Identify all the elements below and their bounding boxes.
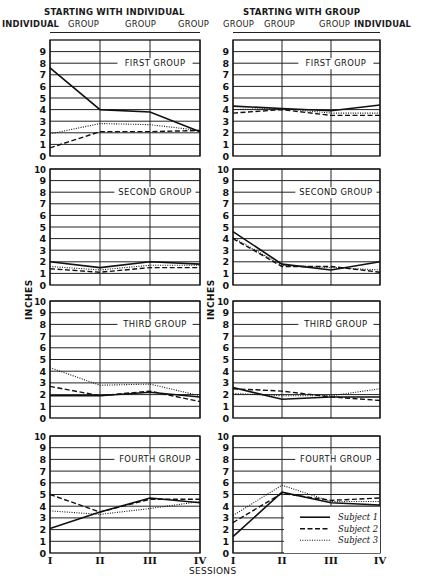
x-tick-label: IV [194,555,207,566]
y-tick-label: 7 [222,331,229,342]
y-tick-label: 0 [222,151,229,162]
y-tick-label: 9 [39,442,46,453]
y-tick-label: 4 [222,501,229,512]
group-label: THIRD GROUP [122,319,186,329]
y-tick-label: 10 [34,165,46,175]
group-label: FOURTH GROUP [119,454,191,464]
y-tick-label: 3 [39,377,46,388]
group-label: THIRD GROUP [303,319,367,329]
y-tick-label: 9 [39,175,46,186]
y-tick-label: 9 [39,307,46,318]
y-tick-label: 2 [39,389,46,400]
y-tick-label: 8 [39,58,46,69]
x-tick-label: III [143,555,157,566]
y-tick-label: 7 [39,466,46,477]
y-tick-label: 1 [39,401,46,412]
group-label: SECOND GROUP [118,187,191,197]
panel-6: 012345678910THIRD GROUP [217,297,380,424]
y-tick-label: 1 [222,536,229,547]
panel-4: 012345678910SECOND GROUP [217,165,380,291]
y-tick-label: 3 [39,512,46,523]
y-tick-label: 1 [39,536,46,547]
y-tick-label: 5 [39,93,46,104]
y-tick-label: 9 [39,46,46,57]
y-tick-label: 9 [222,175,229,186]
legend-label: Subject 1 [338,512,378,522]
y-tick-label: 5 [39,222,46,233]
y-tick-label: 2 [222,256,229,267]
chart-panels: 0123456789FIRST GROUP0123456789FIRST GRO… [0,0,423,587]
series-3-line [50,368,200,396]
y-tick-label: 0 [39,548,46,559]
panel-1: 0123456789FIRST GROUP [39,40,200,162]
y-tick-label: 8 [222,58,229,69]
y-tick-label: 2 [222,524,229,535]
y-tick-label: 10 [34,297,46,307]
y-tick-label: 3 [39,245,46,256]
series-2-line [233,110,380,116]
y-tick-label: 7 [39,331,46,342]
y-tick-label: 2 [39,127,46,138]
y-tick-label: 10 [217,297,229,307]
y-tick-label: 8 [222,187,229,198]
y-tick-label: 4 [39,104,46,115]
y-tick-label: 5 [222,354,229,365]
y-tick-label: 6 [222,477,229,488]
y-tick-label: 3 [222,245,229,256]
y-tick-label: 6 [39,81,46,92]
y-tick-label: 9 [222,442,229,453]
y-tick-label: 0 [39,280,46,291]
y-tick-label: 1 [222,401,229,412]
y-tick-label: 6 [39,210,46,221]
y-tick-label: 6 [222,81,229,92]
y-tick-label: 0 [39,151,46,162]
y-tick-label: 4 [222,366,229,377]
y-tick-label: 0 [222,413,229,424]
y-tick-label: 8 [39,187,46,198]
panel-5: 012345678910THIRD GROUP [34,297,200,424]
y-tick-label: 7 [222,466,229,477]
group-label: SECOND GROUP [299,187,372,197]
y-tick-label: 0 [39,413,46,424]
y-tick-label: 10 [217,165,229,175]
group-label: FIRST GROUP [125,58,186,68]
y-tick-label: 7 [39,69,46,80]
group-label: FOURTH GROUP [300,454,372,464]
y-tick-label: 4 [222,233,229,244]
x-tick-label: IV [374,555,387,566]
y-tick-label: 5 [222,93,229,104]
y-tick-label: 3 [222,512,229,523]
x-tick-label: II [277,555,287,566]
group-label: FIRST GROUP [306,58,367,68]
panel-3: 012345678910SECOND GROUP [34,165,200,291]
y-tick-label: 1 [39,139,46,150]
y-tick-label: 9 [222,307,229,318]
y-tick-label: 5 [222,489,229,500]
y-tick-label: 6 [39,342,46,353]
y-tick-label: 7 [222,198,229,209]
x-tick-label: II [95,555,105,566]
x-tick-label: III [324,555,338,566]
series-1-line [233,388,380,400]
y-tick-label: 0 [222,548,229,559]
y-tick-label: 2 [222,127,229,138]
y-tick-label: 1 [222,268,229,279]
y-tick-label: 3 [222,377,229,388]
panel-8: 012345678910FOURTH GROUPSubject 1Subject… [217,432,386,567]
series-1-line [50,68,200,132]
y-tick-label: 5 [39,489,46,500]
y-tick-label: 6 [222,342,229,353]
y-tick-label: 4 [39,501,46,512]
y-tick-label: 7 [222,69,229,80]
y-tick-label: 4 [39,366,46,377]
y-tick-label: 3 [222,116,229,127]
y-tick-label: 5 [39,354,46,365]
y-tick-label: 3 [39,116,46,127]
y-tick-label: 2 [39,256,46,267]
series-2-line [50,386,200,401]
y-tick-label: 2 [39,524,46,535]
y-tick-label: 4 [39,233,46,244]
y-tick-label: 7 [39,198,46,209]
series-2-line [50,495,200,513]
series-1-line [50,262,200,268]
